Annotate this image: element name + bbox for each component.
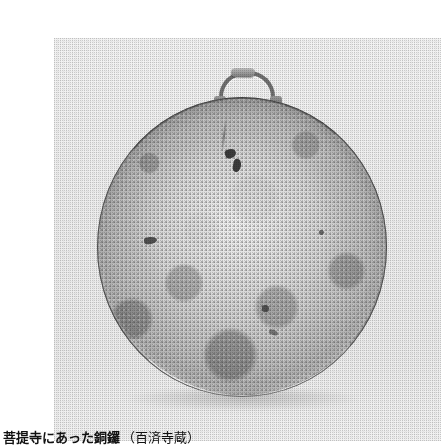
suspension-loop-knob xyxy=(231,68,255,77)
dark-blemish xyxy=(262,305,269,312)
dark-blemish xyxy=(319,230,324,235)
caption-source-text: （百済寺蔵） xyxy=(122,430,200,445)
drop-shadow xyxy=(125,389,361,411)
surface-speckle xyxy=(97,97,387,397)
photo-plate xyxy=(54,38,441,441)
caption-main-text: 菩提寺にあった銅鑼 xyxy=(3,430,120,445)
gong-disc xyxy=(97,97,387,397)
figure-caption: 菩提寺にあった銅鑼（百済寺蔵） xyxy=(3,430,409,446)
gong-object xyxy=(97,71,399,416)
